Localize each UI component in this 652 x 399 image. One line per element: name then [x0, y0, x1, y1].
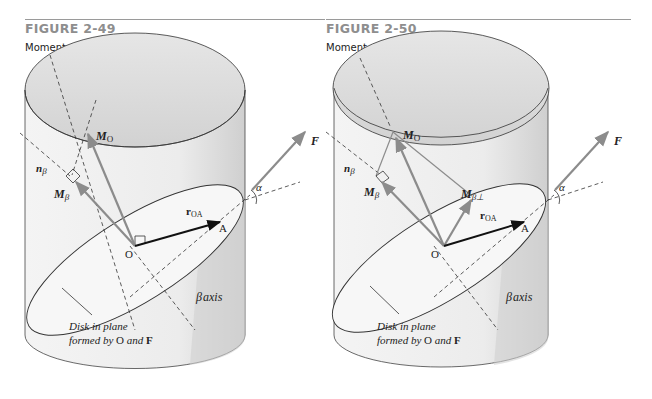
- figure-2-49-diagram: MO nβ Mβ rOA O A F α βaxis Disk in plane…: [0, 0, 326, 399]
- label-beta-axis: βaxis: [505, 290, 533, 304]
- label-force-f: F: [613, 134, 622, 148]
- label-force-f: F: [310, 134, 319, 148]
- figure-2-50-panel: FIGURE 2-50 Moment perpendicular to β ax…: [326, 0, 652, 399]
- label-beta-axis: βaxis: [195, 290, 223, 304]
- label-disk-line1: Disk in plane: [376, 320, 436, 332]
- label-alpha: α: [559, 181, 565, 193]
- label-point-o: O: [125, 248, 133, 260]
- label-point-a: A: [219, 222, 227, 234]
- tangent-dashed: [548, 182, 603, 200]
- label-alpha: α: [256, 181, 262, 193]
- figure-2-49-panel: FIGURE 2-49 Moment about β axis: [0, 0, 326, 399]
- label-point-o: O: [431, 248, 439, 260]
- figure-2-50-diagram: MO nβ Mβ Mβ⊥ rOA O A F α βaxis Disk in p…: [326, 0, 652, 399]
- cylinder-top: [333, 31, 549, 145]
- label-disk-line2: formed by O and F: [377, 334, 461, 346]
- tangent-dashed: [245, 182, 300, 200]
- label-disk-line1: Disk in plane: [68, 320, 128, 332]
- cylinder-top: [25, 33, 245, 147]
- label-disk-line2: formed by O and F: [69, 334, 153, 346]
- label-point-a: A: [521, 222, 529, 234]
